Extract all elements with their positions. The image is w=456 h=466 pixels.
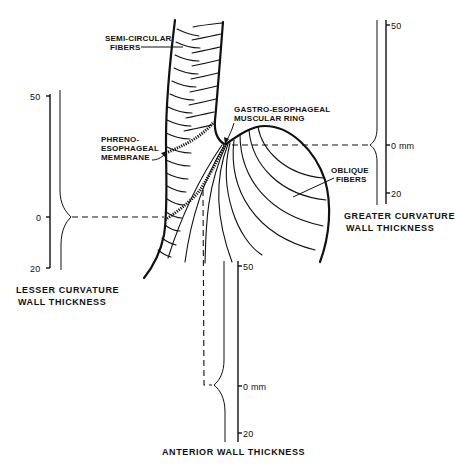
greater-tick-label-0: 0 mm [391,141,414,151]
lesser-thickness-curve [60,90,71,270]
ge-ring-label-line2: MUSCULAR RING [234,114,305,123]
label-oblique-fibers: OBLIQUE FIBERS [293,166,369,197]
ge-ring-leader [227,123,234,140]
greater-tick-label-50: 50 [391,21,401,31]
phreno-label-line1: PHRENO- [101,135,139,144]
phreno-label-line3: MEMBRANE [101,153,150,162]
greater-title-line2: WALL THICKNESS [346,223,434,233]
lesser-tick-label-0: 0 [36,213,41,223]
anterior-tick-label-20: 20 [243,429,253,439]
esophagus-right-wall [215,22,224,144]
gastroesophageal-diagram: SEMI-CIRCULAR FIBERS PHRENO- ESOPHAGEAL … [0,0,456,466]
greater-title-line1: GREATER CURVATURE [344,211,455,221]
greater-tick-label-20: 20 [391,189,401,199]
anterior-wall-scale: 50 0 mm 20 ANTERIOR WALL THICKNESS [162,261,305,457]
lesser-tick-label-50: 50 [30,92,40,102]
phreno-label-line2: ESOPHAGEAL [101,144,159,153]
anterior-thickness-curve [214,261,225,442]
greater-curvature-scale: 50 0 mm 20 GREATER CURVATURE WALL THICKN… [344,20,455,233]
oblique-fibers [168,127,326,263]
label-phreno-esophageal-membrane: PHRENO- ESOPHAGEAL MEMBRANE [101,135,167,162]
membrane-lower [165,143,226,220]
lesser-title-line2: WALL THICKNESS [18,297,106,307]
stomach [168,126,329,263]
lesser-title-line1: LESSER CURVATURE [16,285,119,295]
greater-thickness-curve [370,20,377,205]
lesser-tick-label-20: 20 [30,264,40,274]
anterior-tick-label-50: 50 [243,262,253,272]
ge-ring-label-line1: GASTRO-ESOPHAGEAL [234,105,330,114]
semi-circular-label-line1: SEMI-CIRCULAR [105,34,172,43]
lesser-curvature-scale: 50 0 20 LESSER CURVATURE WALL THICKNESS [16,90,119,307]
anterior-tick-label-0: 0 mm [243,382,266,392]
anterior-title: ANTERIOR WALL THICKNESS [162,447,305,457]
oblique-label-line2: FIBERS [336,175,367,184]
oblique-label-line1: OBLIQUE [331,166,369,175]
semi-circular-label-line2: FIBERS [110,43,141,52]
